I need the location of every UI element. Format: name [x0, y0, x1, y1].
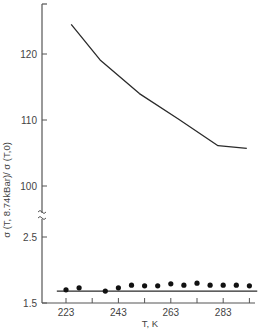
x-tick-label: 263 [162, 307, 179, 318]
data-point [234, 283, 239, 288]
x-axis-title: T, K [142, 318, 159, 329]
upper-curve [71, 24, 247, 148]
data-point [221, 283, 226, 288]
data-point [103, 289, 108, 294]
data-point [208, 283, 213, 288]
chart: 1001101201.52.5223243263283T, Kσ (T, 8.7… [0, 0, 262, 331]
data-point [155, 283, 160, 288]
data-point [194, 281, 199, 286]
data-point [247, 283, 252, 288]
y-tick-label: 2.5 [23, 232, 37, 243]
y-tick-label: 1.5 [23, 298, 37, 309]
data-point [142, 283, 147, 288]
x-tick-label: 283 [215, 307, 232, 318]
x-tick-label: 243 [110, 307, 127, 318]
plot-area [57, 24, 257, 293]
data-point [63, 287, 68, 292]
data-point [116, 285, 121, 290]
data-point [129, 283, 134, 288]
y-tick-label: 120 [20, 49, 37, 60]
data-point [77, 285, 82, 290]
y-axis-title: σ (T, 8.74kBar)/ σ (T,0) [1, 142, 12, 238]
data-point [181, 283, 186, 288]
y-tick-label: 100 [20, 181, 37, 192]
y-tick-label: 110 [21, 115, 37, 126]
axes [38, 4, 255, 303]
data-point [168, 281, 173, 286]
x-tick-label: 223 [58, 307, 75, 318]
